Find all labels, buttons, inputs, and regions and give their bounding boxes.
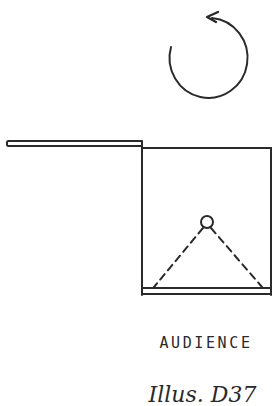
sightline-left xyxy=(154,228,203,287)
audience-label: AUDIENCE xyxy=(150,334,262,352)
performer-icon xyxy=(201,216,213,228)
figure-caption: Illus. D37 xyxy=(140,382,265,406)
stage-apron xyxy=(142,288,271,294)
stage-outline xyxy=(142,141,271,295)
flat-bar xyxy=(7,141,142,146)
rotation-arrow-icon xyxy=(170,18,248,98)
sightline-right xyxy=(211,228,262,287)
arrowhead-icon xyxy=(207,12,218,22)
